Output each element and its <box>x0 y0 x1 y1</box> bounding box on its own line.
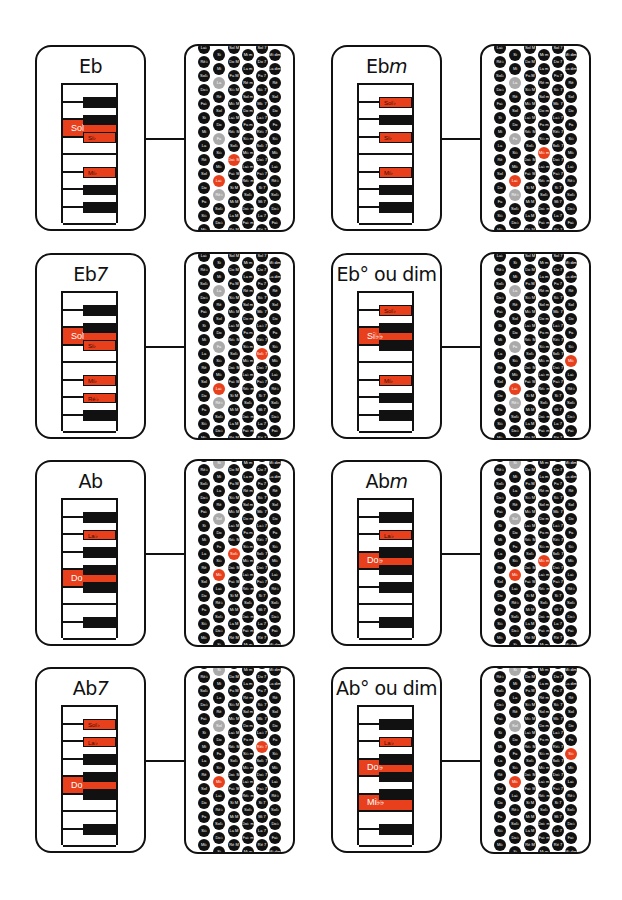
accordion-button[interactable]: Mi m <box>242 231 254 232</box>
accordion-button[interactable]: Fa dim <box>269 119 281 131</box>
accordion-button[interactable]: Fa♭ <box>494 98 506 110</box>
accordion-button[interactable]: Ré♭ m <box>538 175 550 187</box>
accordion-button[interactable]: Sol♭ dim <box>565 397 577 409</box>
accordion-button[interactable]: Do dim <box>565 513 577 525</box>
accordion-button[interactable]: Mi m <box>242 639 254 647</box>
accordion-button[interactable]: Fa dim <box>269 734 281 746</box>
accordion-button[interactable]: Mi dim <box>269 666 281 676</box>
accordion-button[interactable]: Sol M <box>524 459 536 462</box>
accordion-button[interactable]: Fa♭ 7 <box>552 168 564 180</box>
accordion-button[interactable]: Do♭ <box>198 492 210 504</box>
accordion-button[interactable]: Ré♭ dim <box>269 790 281 802</box>
accordion-button[interactable]: Sol <box>198 783 210 795</box>
accordion-button[interactable]: Si <box>198 320 210 332</box>
accordion-button[interactable]: Do♭ 7 <box>256 769 268 781</box>
accordion-button[interactable]: La♭ 7 <box>552 112 564 124</box>
accordion-button[interactable]: Fa♭ m <box>538 217 550 229</box>
accordion-button[interactable]: Mi♭ 7 <box>552 98 564 110</box>
accordion-button[interactable]: Mi 7 <box>256 196 268 208</box>
accordion-button[interactable]: Ré 7 <box>256 432 268 440</box>
accordion-button[interactable]: La <box>198 755 210 767</box>
accordion-button[interactable]: Sol♭ <box>494 478 506 490</box>
accordion-button[interactable]: Si♭ <box>198 418 210 430</box>
accordion-button[interactable]: Do M <box>228 56 240 68</box>
accordion-button[interactable]: Sol 7 <box>552 44 564 54</box>
accordion-button[interactable]: Mi♭ m <box>538 762 550 774</box>
accordion-button[interactable]: Do <box>213 734 225 746</box>
accordion-button[interactable]: La <box>494 755 506 767</box>
accordion-button[interactable]: Mi♭ m <box>242 762 254 774</box>
accordion-button[interactable]: Mi M <box>524 604 536 616</box>
accordion-button[interactable]: Ré M <box>228 632 240 644</box>
accordion-button[interactable]: Sol♭ <box>494 70 506 82</box>
accordion-button[interactable]: Ré dim <box>565 692 577 704</box>
accordion-button[interactable]: Ré 7 <box>256 839 268 851</box>
accordion-button[interactable]: Fa♭ m <box>242 425 254 437</box>
accordion-button[interactable]: Do m <box>538 513 550 525</box>
accordion-button[interactable]: Fa♭ <box>198 98 210 110</box>
accordion-button[interactable]: Sol♭ <box>509 611 521 623</box>
accordion-button[interactable]: Sol♭ <box>494 685 506 697</box>
accordion-button[interactable]: Ré <box>198 362 210 374</box>
accordion-button[interactable]: Fa dim <box>565 327 577 339</box>
accordion-button[interactable]: Ré <box>198 562 210 574</box>
accordion-button[interactable]: La M <box>524 618 536 630</box>
accordion-button[interactable]: Do <box>494 182 506 194</box>
accordion-button[interactable]: Sol M <box>524 666 536 669</box>
accordion-button[interactable]: Mi M <box>524 811 536 823</box>
accordion-button[interactable]: Fa 7 <box>256 685 268 697</box>
accordion-button[interactable]: Ré <box>494 562 506 574</box>
accordion-button[interactable]: Mi♭ M <box>524 98 536 110</box>
accordion-button[interactable]: Do 7 <box>256 464 268 476</box>
accordion-button[interactable]: Mi M <box>524 404 536 416</box>
accordion-button[interactable]: La 7 <box>256 618 268 630</box>
accordion-button[interactable]: Fa dim <box>269 327 281 339</box>
accordion-button[interactable]: Mi <box>494 334 506 346</box>
accordion-button[interactable]: Mi dim <box>269 459 281 469</box>
accordion-button[interactable]: Ré dim <box>565 285 577 297</box>
accordion-button[interactable]: Ré <box>509 299 521 311</box>
accordion-button[interactable]: Fa♭ dim <box>565 832 577 844</box>
accordion-button[interactable]: Si♭ dim <box>565 748 577 760</box>
accordion-button[interactable]: Si♭ <box>494 825 506 837</box>
accordion-button[interactable]: Do dim <box>269 513 281 525</box>
accordion-button[interactable]: Do♭ M <box>228 362 240 374</box>
accordion-button[interactable]: Sol♭ dim <box>565 804 577 816</box>
accordion-button[interactable]: Mi♭ M <box>228 713 240 725</box>
accordion-button[interactable]: Si♭ 7 <box>256 292 268 304</box>
accordion-button[interactable]: Fa♭ 7 <box>256 783 268 795</box>
accordion-button[interactable]: Si <box>494 520 506 532</box>
accordion-button[interactable]: Mi <box>213 271 225 283</box>
accordion-button[interactable]: La♭ dim <box>565 369 577 381</box>
accordion-button[interactable]: Fa♭ <box>198 306 210 318</box>
accordion-button[interactable]: Ré♭ dim <box>269 383 281 395</box>
accordion-button[interactable]: Si 7 <box>552 590 564 602</box>
accordion-button[interactable]: La♭ dim <box>565 569 577 581</box>
accordion-button[interactable]: Si <box>198 727 210 739</box>
accordion-button[interactable]: La M <box>228 825 240 837</box>
accordion-button[interactable]: Sol M <box>524 252 536 262</box>
accordion-button[interactable]: La♭ 7 <box>256 520 268 532</box>
accordion-button[interactable]: Sol♭ m <box>538 397 550 409</box>
accordion-button[interactable]: La♭ <box>509 175 521 187</box>
accordion-button[interactable]: Ré♭ <box>213 397 225 409</box>
accordion-button[interactable]: Mi <box>198 534 210 546</box>
accordion-button[interactable]: Mi 7 <box>256 811 268 823</box>
accordion-button[interactable]: Sol m <box>538 499 550 511</box>
accordion-button[interactable]: Fa <box>198 404 210 416</box>
accordion-button[interactable]: La♭ 7 <box>552 520 564 532</box>
accordion-button[interactable]: Fa m <box>242 327 254 339</box>
accordion-button[interactable]: Fa <box>494 196 506 208</box>
accordion-button[interactable]: Ré <box>198 769 210 781</box>
accordion-button[interactable]: La <box>213 692 225 704</box>
accordion-button[interactable]: La m <box>242 471 254 483</box>
accordion-button[interactable]: Do♭ M <box>228 769 240 781</box>
accordion-button[interactable]: Si <box>213 257 225 269</box>
accordion-button[interactable]: Sol 7 <box>256 666 268 669</box>
accordion-button[interactable]: La dim <box>565 678 577 690</box>
accordion-button[interactable]: Mi♭ dim <box>565 555 577 567</box>
accordion-button[interactable]: Ré♭ dim <box>269 175 281 187</box>
accordion-button[interactable]: Mi m <box>242 439 254 440</box>
accordion-button[interactable]: Do 7 <box>552 671 564 683</box>
accordion-button[interactable]: Si♭ 7 <box>552 699 564 711</box>
